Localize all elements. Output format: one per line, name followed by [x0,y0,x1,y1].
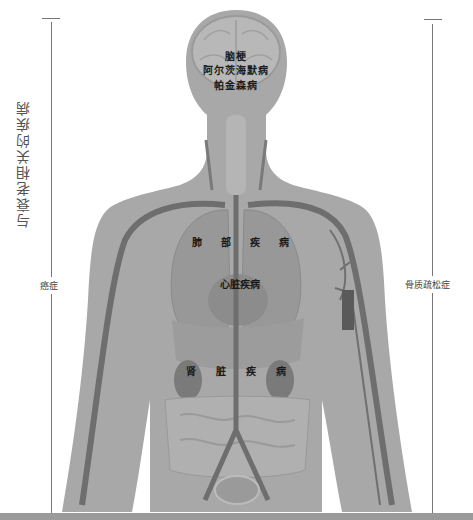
kidney-label-char: 疾 [246,367,276,377]
kidney-label-char: 脏 [216,367,246,377]
kidney-label-char: 肾 [186,367,216,377]
osteoporosis-label: 骨质疏松症 [405,276,450,293]
human-body-illustration [0,0,473,520]
left-vertical-line [51,22,52,292]
right-vertical-line [432,24,433,514]
lung-label-char: 肺 [192,238,221,248]
cancer-label: 癌症 [40,277,58,294]
kidney-disease-label: 肾脏疾病 [186,367,286,377]
right-top-cap [424,19,442,20]
lung-label-char: 疾 [250,238,279,248]
brain-label-stroke: 脑梗 [225,52,247,62]
lung-label-char: 病 [279,238,289,248]
diagram-title: 与衰老相关的疾病 [14,100,34,228]
bottom-bar [0,513,473,520]
kidney-label-char: 病 [276,367,286,377]
left-top-cap [42,18,60,19]
brain-label-alzheimers: 阿尔茨海默病 [203,66,269,76]
brain-label-parkinsons: 帕金森病 [214,81,258,91]
heart-disease-label: 心脏疾病 [220,280,260,290]
arm-bone-highlight [342,290,354,330]
lung-label-char: 部 [221,238,250,248]
left-vertical-line-lower [51,292,52,514]
lung-disease-label: 肺部疾病 [192,238,289,248]
aging-diseases-diagram: 与衰老相关的疾病 癌症 骨质疏松症 脑梗 阿尔茨海默病 帕金森病 肺部疾病 心脏… [0,0,473,520]
